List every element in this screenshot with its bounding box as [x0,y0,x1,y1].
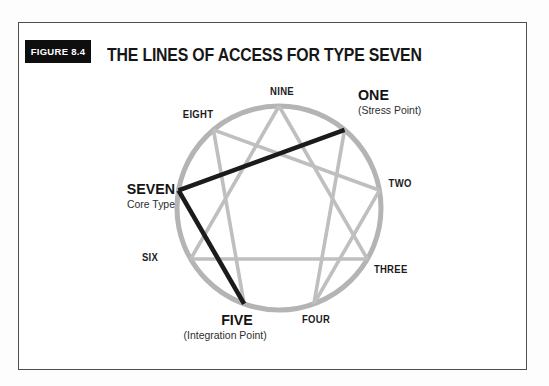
type-five-label: FIVE [199,312,275,327]
type-one-block: ONE (Stress Point) [358,87,421,117]
type-one-label: ONE [358,87,421,102]
type-nine-label: NINE [244,86,320,97]
type-four-label: FOUR [278,314,354,325]
type-five-block: FIVE (Integration Point) [199,312,275,342]
type-six-label: SIX [112,252,188,263]
stress-point-label: (Stress Point) [358,104,421,117]
type-eight-label: EIGHT [160,109,236,120]
type-seven-block: SEVEN Core Type [61,181,175,211]
figure-page: FIGURE 8.4 THE LINES OF ACCESS FOR TYPE … [0,0,549,386]
type-seven-label: SEVEN [61,181,175,196]
type-two-label: TWO [389,178,412,189]
type-three-label: THREE [374,264,408,275]
core-type-label: Core Type [61,198,175,211]
integration-point-label: (Integration Point) [175,329,275,342]
